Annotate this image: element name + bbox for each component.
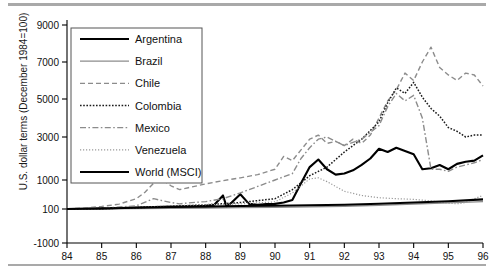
x-tick-label: 90 [269, 251, 281, 262]
x-tick-label: 95 [443, 251, 455, 262]
bottom-divider-rule [8, 264, 486, 266]
y-tick-label: 3000 [37, 132, 60, 143]
y-tick-label: 1000 [37, 175, 60, 186]
y-axis-label: U.S. dollar terms (December 1984=100) [18, 7, 29, 197]
legend-label: Venezuela [135, 144, 187, 156]
y-tick-label: 100 [42, 204, 59, 215]
legend-label: Argentina [135, 33, 183, 45]
top-divider-rule [8, 3, 486, 6]
legend-label: Chile [135, 77, 160, 89]
x-tick-label: 94 [408, 251, 420, 262]
legend-label: World (MSCI) [135, 166, 201, 178]
y-tick-label: 7000 [37, 57, 60, 68]
chart-legend: ArgentinaBrazilChileColombiaMexicoVenezu… [71, 28, 202, 183]
legend-label: Mexico [135, 122, 170, 134]
y-tick-label: -1000 [33, 238, 59, 249]
legend-label: Brazil [135, 55, 163, 67]
x-tick-label: 91 [304, 251, 316, 262]
x-tick-label: 87 [165, 251, 177, 262]
x-tick-label: 88 [200, 251, 212, 262]
line-chart-plot: 90007000500030001000100-1000 84858687888… [0, 0, 491, 271]
x-tick-label: 86 [131, 251, 143, 262]
x-tick-label: 84 [61, 251, 73, 262]
x-tick-label: 96 [477, 251, 489, 262]
legend-label: Colombia [135, 100, 182, 112]
x-tick-label: 89 [235, 251, 247, 262]
x-tick-label: 92 [339, 251, 351, 262]
y-axis-ticks: 90007000500030001000100-1000 [33, 20, 67, 249]
x-tick-label: 93 [373, 251, 385, 262]
x-axis-ticks: 84858687888990919293949596 [61, 243, 489, 262]
y-tick-label: 5000 [37, 94, 60, 105]
x-tick-label: 85 [96, 251, 108, 262]
y-tick-label: 9000 [37, 20, 60, 31]
chart-figure: U.S. dollar terms (December 1984=100) 90… [0, 0, 491, 271]
